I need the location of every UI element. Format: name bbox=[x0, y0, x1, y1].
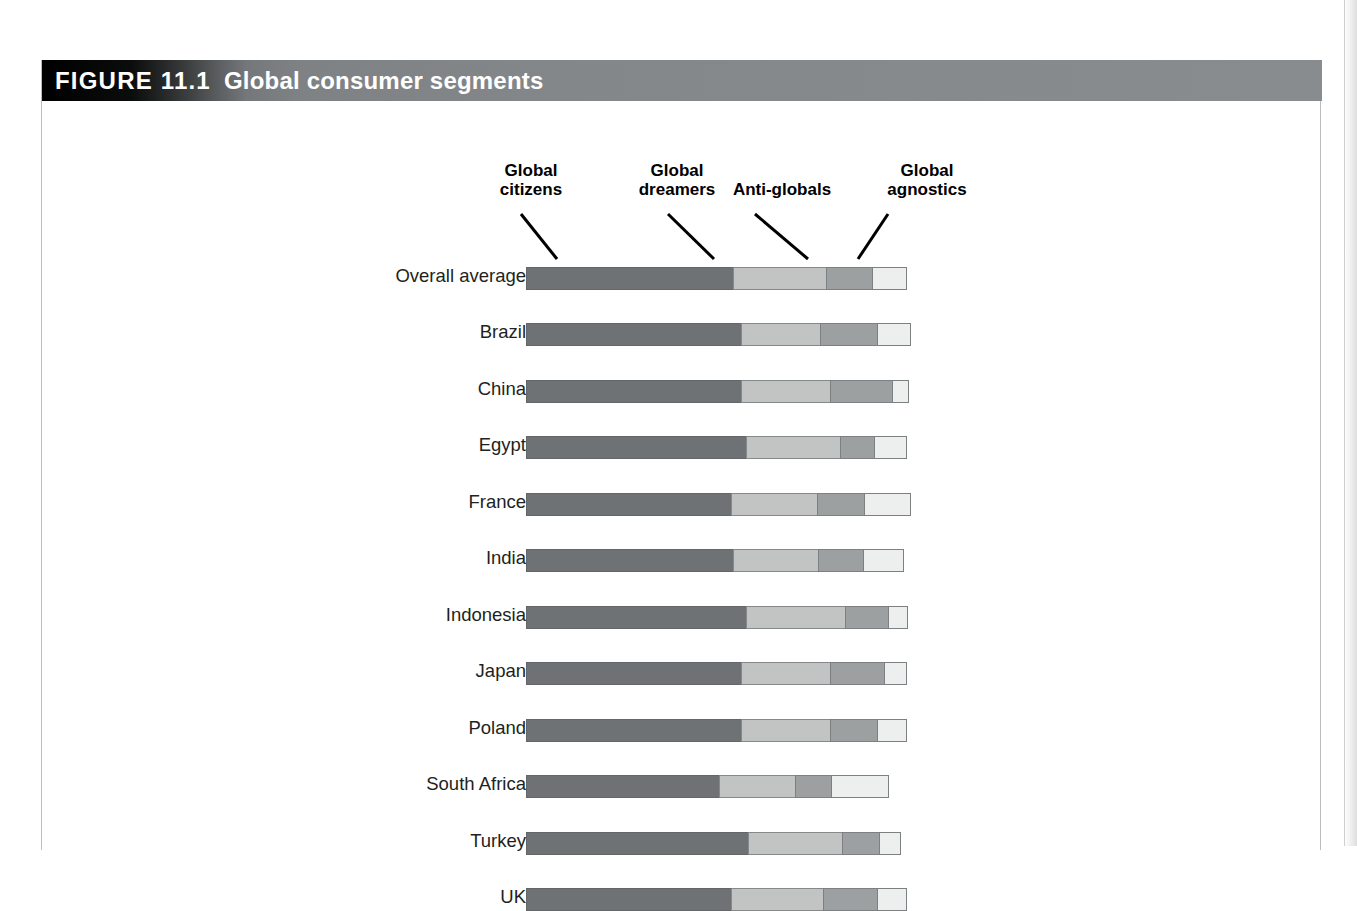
segment-global-agnostics bbox=[877, 719, 907, 742]
segment-global-agnostics bbox=[879, 832, 901, 855]
stacked-bar bbox=[526, 323, 911, 346]
page-edge-line bbox=[1344, 0, 1345, 846]
segment-anti-globals bbox=[817, 493, 865, 516]
segment-global-citizens bbox=[526, 662, 742, 685]
legend-label-global-citizens: Global citizens bbox=[471, 161, 591, 199]
chart-row: Turkey bbox=[42, 832, 1322, 855]
chart-row: China bbox=[42, 380, 1322, 403]
row-label: Poland bbox=[266, 717, 526, 739]
legend-label-anti-globals: Anti-globals bbox=[702, 180, 862, 199]
chart-row: South Africa bbox=[42, 775, 1322, 798]
chart-row: Indonesia bbox=[42, 606, 1322, 629]
segment-global-agnostics bbox=[884, 662, 907, 685]
segment-global-dreamers bbox=[719, 775, 796, 798]
segment-global-dreamers bbox=[733, 549, 819, 572]
segment-global-dreamers bbox=[741, 719, 831, 742]
chart-row: UK bbox=[42, 888, 1322, 911]
segment-anti-globals bbox=[830, 719, 878, 742]
segment-anti-globals bbox=[845, 606, 889, 629]
segment-global-citizens bbox=[526, 549, 734, 572]
stacked-bar bbox=[526, 719, 907, 742]
segment-anti-globals bbox=[820, 323, 878, 346]
segment-global-citizens bbox=[526, 775, 720, 798]
segment-global-dreamers bbox=[746, 436, 841, 459]
segment-global-agnostics bbox=[892, 380, 909, 403]
stacked-bar bbox=[526, 436, 907, 459]
chart-row: Japan bbox=[42, 662, 1322, 685]
row-label: Egypt bbox=[266, 434, 526, 456]
stacked-bar bbox=[526, 267, 907, 290]
segment-anti-globals bbox=[830, 662, 885, 685]
row-label: Japan bbox=[266, 660, 526, 682]
row-label: France bbox=[266, 491, 526, 513]
segment-global-citizens bbox=[526, 267, 734, 290]
stacked-bar bbox=[526, 549, 904, 572]
segment-global-dreamers bbox=[741, 380, 831, 403]
stacked-bar bbox=[526, 493, 911, 516]
segment-anti-globals bbox=[795, 775, 832, 798]
row-label: UK bbox=[266, 886, 526, 908]
segment-global-agnostics bbox=[874, 436, 907, 459]
stacked-bar bbox=[526, 775, 889, 798]
segment-global-agnostics bbox=[831, 775, 889, 798]
segment-global-citizens bbox=[526, 832, 749, 855]
stacked-bar bbox=[526, 832, 901, 855]
segment-global-dreamers bbox=[748, 832, 843, 855]
row-label: China bbox=[266, 378, 526, 400]
chart-row: India bbox=[42, 549, 1322, 572]
stacked-bar bbox=[526, 380, 909, 403]
stacked-bar bbox=[526, 888, 907, 911]
segment-anti-globals bbox=[818, 549, 864, 572]
row-label: South Africa bbox=[266, 773, 526, 795]
chart-area: Global citizens Global dreamers Anti-glo… bbox=[42, 101, 1322, 850]
segment-anti-globals bbox=[826, 267, 873, 290]
segment-global-dreamers bbox=[741, 662, 831, 685]
figure-number: FIGURE 11.1 bbox=[55, 67, 211, 94]
segment-global-dreamers bbox=[731, 888, 824, 911]
segment-global-dreamers bbox=[731, 493, 818, 516]
segment-global-citizens bbox=[526, 606, 747, 629]
segment-global-citizens bbox=[526, 380, 742, 403]
segment-global-dreamers bbox=[733, 267, 827, 290]
figure-header-text: FIGURE 11.1Global consumer segments bbox=[55, 67, 544, 95]
segment-global-agnostics bbox=[872, 267, 907, 290]
segment-anti-globals bbox=[840, 436, 875, 459]
row-label: Turkey bbox=[266, 830, 526, 852]
row-label: Overall average bbox=[266, 265, 526, 287]
page-gutter-shadow bbox=[1344, 0, 1357, 846]
chart-row: Overall average bbox=[42, 267, 1322, 290]
row-label: India bbox=[266, 547, 526, 569]
segment-global-dreamers bbox=[746, 606, 846, 629]
segment-global-dreamers bbox=[741, 323, 821, 346]
figure-title: Global consumer segments bbox=[224, 67, 544, 94]
stacked-bar bbox=[526, 662, 907, 685]
legend-label-global-agnostics: Global agnostics bbox=[862, 161, 992, 199]
segment-anti-globals bbox=[830, 380, 893, 403]
chart-row: Brazil bbox=[42, 323, 1322, 346]
segment-anti-globals bbox=[823, 888, 878, 911]
segment-global-citizens bbox=[526, 719, 742, 742]
row-label: Brazil bbox=[266, 321, 526, 343]
segment-global-citizens bbox=[526, 436, 747, 459]
figure-container: FIGURE 11.1Global consumer segments Glob… bbox=[41, 60, 1321, 850]
chart-row: France bbox=[42, 493, 1322, 516]
row-label: Indonesia bbox=[266, 604, 526, 626]
figure-header-bar: FIGURE 11.1Global consumer segments bbox=[42, 60, 1322, 101]
segment-anti-globals bbox=[842, 832, 880, 855]
segment-global-citizens bbox=[526, 888, 732, 911]
stacked-bar bbox=[526, 606, 908, 629]
segment-global-citizens bbox=[526, 493, 732, 516]
segment-global-agnostics bbox=[863, 549, 904, 572]
chart-row: Egypt bbox=[42, 436, 1322, 459]
segment-global-agnostics bbox=[864, 493, 911, 516]
segment-global-agnostics bbox=[877, 888, 907, 911]
chart-row: Poland bbox=[42, 719, 1322, 742]
segment-global-agnostics bbox=[877, 323, 911, 346]
segment-global-agnostics bbox=[888, 606, 908, 629]
segment-global-citizens bbox=[526, 323, 742, 346]
